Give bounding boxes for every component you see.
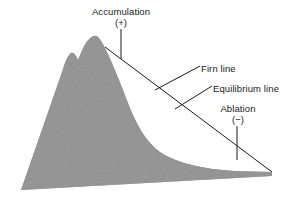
accumulation-label: Accumulation (+) <box>85 6 157 28</box>
accumulation-label-text: Accumulation <box>92 6 150 17</box>
equilibrium-line-label: Equilibrium line <box>213 83 279 94</box>
firn-line-label: Firn line <box>201 63 236 74</box>
ablation-label: Ablation (−) <box>210 103 266 125</box>
equilibrium-line-leader-line <box>175 86 212 109</box>
ablation-label-text: Ablation <box>220 103 255 114</box>
accumulation-sign: (+) <box>85 17 157 28</box>
glacier-mass-balance-figure: Accumulation (+) Ablation (−) Firn line … <box>0 0 295 209</box>
ablation-sign: (−) <box>210 114 266 125</box>
firn-line-leader-line <box>155 66 200 90</box>
